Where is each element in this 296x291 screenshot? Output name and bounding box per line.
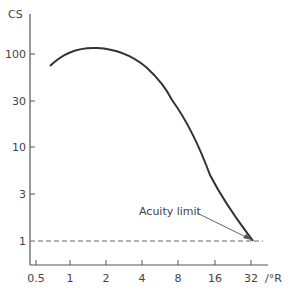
x-tick-label: 16 bbox=[208, 272, 222, 285]
y-tick-label: 100 bbox=[5, 48, 26, 61]
x-tick-label: 8 bbox=[175, 272, 182, 285]
x-axis-unit: /°R bbox=[265, 272, 282, 285]
x-ticks bbox=[36, 260, 251, 265]
csf-chart: CS 100 30 10 3 1 0.5 1 2 4 8 16 32 /°R A… bbox=[0, 0, 296, 291]
y-tick-label: 30 bbox=[12, 95, 26, 108]
x-tick-label: 4 bbox=[139, 272, 146, 285]
x-tick-label: 0.5 bbox=[27, 272, 45, 285]
y-ticks bbox=[30, 54, 35, 194]
x-tick-label: 1 bbox=[67, 272, 74, 285]
y-tick-label: 10 bbox=[12, 141, 26, 154]
acuity-limit-label: Acuity limit bbox=[139, 205, 202, 218]
y-axis-label: CS bbox=[8, 8, 23, 21]
y-tick-label: 3 bbox=[19, 188, 26, 201]
x-tick-label: 2 bbox=[103, 272, 110, 285]
y-tick-label: 1 bbox=[19, 235, 26, 248]
x-tick-label: 32 bbox=[244, 272, 258, 285]
